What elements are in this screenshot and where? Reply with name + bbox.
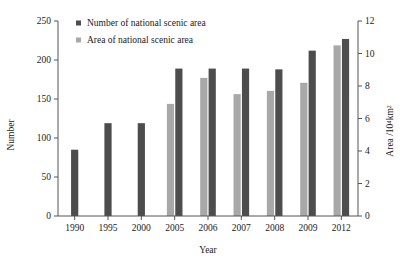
x-tick-label: 2000: [132, 223, 151, 233]
right-axis-title: Area /10⁴km²: [385, 105, 395, 156]
x-tick-label: 1990: [65, 223, 84, 233]
right-tick-label: 6: [365, 114, 370, 124]
x-tick-label: 2005: [165, 223, 184, 233]
x-tick-label: 2012: [332, 223, 351, 233]
bar-number: [104, 123, 111, 216]
left-tick-label: 150: [37, 94, 52, 104]
bar-number: [309, 51, 316, 216]
right-tick-label: 4: [365, 146, 370, 156]
bar-number: [342, 39, 349, 216]
chart-legend: Number of national scenic areaArea of na…: [76, 18, 206, 45]
bar-number: [138, 123, 145, 216]
chart-container: 050100150200250 024681012 19901995200020…: [0, 0, 406, 261]
x-tick-label: 2007: [232, 223, 251, 233]
legend-swatch: [76, 21, 81, 26]
bar-series-group: [71, 39, 349, 216]
bar-area: [234, 94, 241, 216]
right-tick-label: 0: [365, 211, 370, 221]
bar-number: [242, 69, 249, 216]
bar-number: [209, 69, 216, 216]
right-tick-label: 10: [365, 49, 375, 59]
left-axis-title: Number: [6, 119, 16, 151]
bar-number: [71, 150, 78, 216]
legend-swatch: [76, 38, 81, 43]
left-tick-label: 0: [46, 211, 51, 221]
x-tick-label: 1995: [99, 223, 118, 233]
x-axis-title: Year: [199, 245, 217, 255]
x-tick-label: 2009: [299, 223, 318, 233]
left-axis-ticks: 050100150200250: [37, 16, 58, 221]
bar-area: [167, 104, 174, 216]
bar-number: [275, 69, 282, 216]
legend-label: Number of national scenic area: [87, 18, 206, 28]
bar-area: [267, 91, 274, 216]
bar-area: [300, 83, 307, 216]
x-tick-label: 2008: [265, 223, 284, 233]
left-tick-label: 100: [37, 133, 52, 143]
bar-number: [175, 69, 182, 216]
left-tick-label: 250: [37, 16, 52, 26]
x-axis-ticks: 199019952000200520062007200820092012: [65, 216, 351, 233]
right-tick-label: 12: [365, 16, 375, 26]
right-axis-ticks: 024681012: [358, 16, 375, 221]
legend-label: Area of national scenic area: [87, 35, 194, 45]
x-tick-label: 2006: [199, 223, 218, 233]
scenic-area-bar-chart: 050100150200250 024681012 19901995200020…: [0, 0, 406, 261]
right-tick-label: 2: [365, 179, 370, 189]
right-tick-label: 8: [365, 81, 370, 91]
bar-area: [334, 45, 341, 216]
left-tick-label: 200: [37, 55, 52, 65]
bar-area: [200, 78, 207, 216]
left-tick-label: 50: [42, 172, 52, 182]
